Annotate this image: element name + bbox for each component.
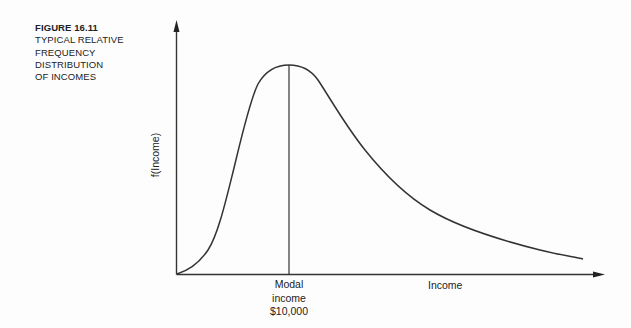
modal-label-line: income	[270, 292, 308, 306]
y-axis-label: f(Income)	[149, 133, 161, 177]
chart-plot	[0, 0, 631, 328]
modal-label-line: Modal	[270, 278, 308, 292]
x-axis-label: Income	[428, 279, 462, 291]
y-axis-arrow-icon	[174, 20, 180, 32]
income-distribution-curve	[177, 65, 583, 274]
modal-label-line: $10,000	[270, 305, 308, 319]
modal-income-label: Modal income $10,000	[270, 278, 308, 319]
x-axis-arrow-icon	[593, 272, 605, 278]
